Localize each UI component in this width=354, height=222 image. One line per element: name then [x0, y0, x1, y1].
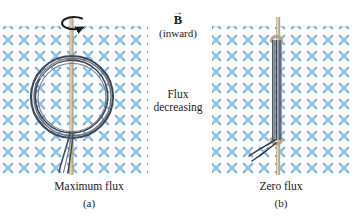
panel-a-letter: (a) — [24, 197, 154, 209]
panel-a-caption: Maximum flux — [24, 180, 154, 192]
b-vector-symbol: → B — [174, 14, 182, 27]
panel-b-letter: (b) — [222, 197, 340, 209]
b-field-qualifier: (inward) — [150, 28, 206, 40]
flux-decreasing-note: Flux decreasing — [146, 88, 210, 114]
b-field-label: → B (inward) — [150, 14, 206, 40]
panel-b-caption: Zero flux — [222, 180, 340, 192]
flux-note-line1: Flux — [167, 88, 188, 100]
panel-b-coil-loop-edge-on — [272, 37, 283, 144]
flux-note-line2: decreasing — [153, 101, 202, 113]
vector-arrow-icon: → — [173, 7, 183, 18]
magnetic-field-left-panel — [2, 26, 148, 178]
